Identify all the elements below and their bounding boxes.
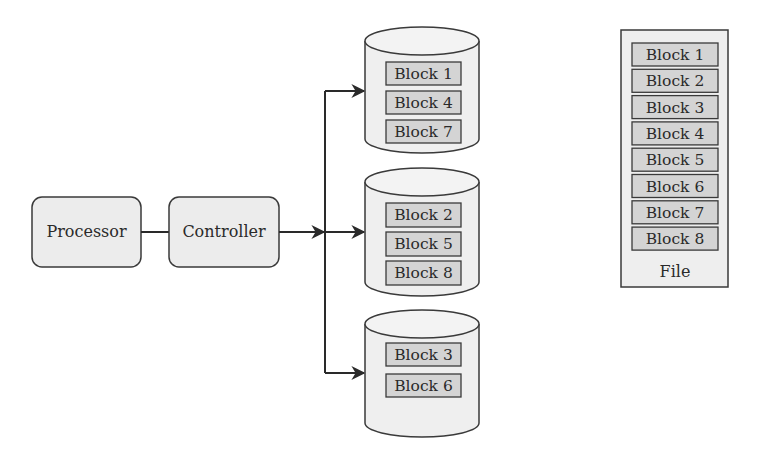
disk-block: Block 6 xyxy=(386,374,461,397)
svg-text:Block 2: Block 2 xyxy=(646,72,705,90)
svg-text:Block 7: Block 7 xyxy=(646,204,705,222)
svg-text:Block 2: Block 2 xyxy=(394,206,453,224)
file-block: Block 8 xyxy=(632,227,718,250)
processor-node: Processor xyxy=(32,197,141,267)
file-label: File xyxy=(660,262,691,281)
svg-text:Block 1: Block 1 xyxy=(646,46,705,64)
file-block: Block 5 xyxy=(632,148,718,171)
disk-block: Block 1 xyxy=(386,62,461,85)
svg-text:Block 5: Block 5 xyxy=(646,151,705,169)
striping-diagram: Processor Controller Block 1 Block 4 Blo… xyxy=(0,0,761,451)
disk-block: Block 3 xyxy=(386,343,461,366)
svg-text:Block 8: Block 8 xyxy=(394,264,453,282)
controller-node: Controller xyxy=(169,197,279,267)
disk-block: Block 8 xyxy=(386,261,461,285)
svg-text:Block 6: Block 6 xyxy=(646,178,705,196)
file-container: Block 1 Block 2 Block 3 Block 4 Block 5 … xyxy=(621,30,728,287)
disk-1-top xyxy=(365,27,479,55)
disk-2: Block 2 Block 5 Block 8 xyxy=(365,168,479,296)
disk-3: Block 3 Block 6 xyxy=(365,310,479,437)
svg-text:Block 4: Block 4 xyxy=(394,94,453,112)
disk-block: Block 7 xyxy=(386,120,461,143)
disk-3-top xyxy=(365,310,479,338)
svg-text:Block 6: Block 6 xyxy=(394,377,453,395)
file-block: Block 7 xyxy=(632,201,718,224)
disk-block: Block 4 xyxy=(386,91,461,114)
svg-text:Block 5: Block 5 xyxy=(394,235,453,253)
file-block: Block 1 xyxy=(632,43,718,66)
svg-text:Block 4: Block 4 xyxy=(646,125,705,143)
controller-label: Controller xyxy=(182,222,266,241)
processor-label: Processor xyxy=(46,222,127,241)
file-block: Block 6 xyxy=(632,175,718,198)
svg-text:Block 1: Block 1 xyxy=(394,65,453,83)
svg-text:Block 3: Block 3 xyxy=(394,346,453,364)
disk-block: Block 2 xyxy=(386,203,461,227)
disk-1: Block 1 Block 4 Block 7 xyxy=(365,27,479,153)
file-block: Block 4 xyxy=(632,122,718,145)
file-block: Block 3 xyxy=(632,96,718,119)
svg-text:Block 7: Block 7 xyxy=(394,123,453,141)
disk-2-top xyxy=(365,168,479,196)
disk-block: Block 5 xyxy=(386,232,461,256)
file-block: Block 2 xyxy=(632,69,718,92)
svg-text:Block 3: Block 3 xyxy=(646,99,705,117)
svg-text:Block 8: Block 8 xyxy=(646,230,705,248)
